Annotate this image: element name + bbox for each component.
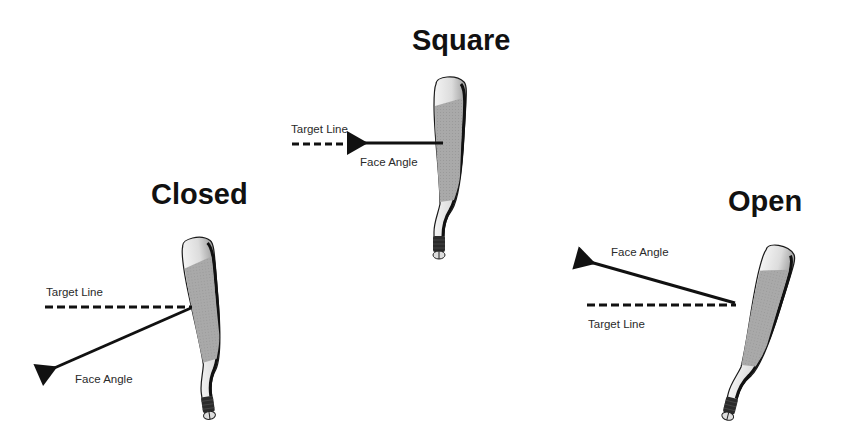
face-angle-label-square: Face Angle <box>360 156 418 168</box>
panel-title-open: Open <box>728 185 802 217</box>
face-angle-arrow-closed <box>52 308 191 369</box>
panel-square: Square Target Line Face Angle <box>291 24 510 259</box>
club-head-open-icon <box>721 242 797 427</box>
panel-title-closed: Closed <box>151 178 248 210</box>
club-head-square-icon <box>433 77 466 259</box>
club-head-closed-icon <box>179 235 237 420</box>
target-line-label-square: Target Line <box>291 123 348 135</box>
face-angle-label-open: Face Angle <box>611 246 669 258</box>
face-angle-diagram: Square Target Line Face Angle Closed Tar… <box>0 0 849 448</box>
panel-open: Open Face Angle Target Line <box>587 185 802 427</box>
target-line-label-open: Target Line <box>588 318 645 330</box>
panel-title-square: Square <box>412 24 510 56</box>
face-angle-label-closed: Face Angle <box>75 373 133 385</box>
panel-closed: Closed Target Line Face Angle <box>45 178 248 420</box>
face-angle-arrow-open <box>590 262 735 303</box>
target-line-label-closed: Target Line <box>46 286 103 298</box>
